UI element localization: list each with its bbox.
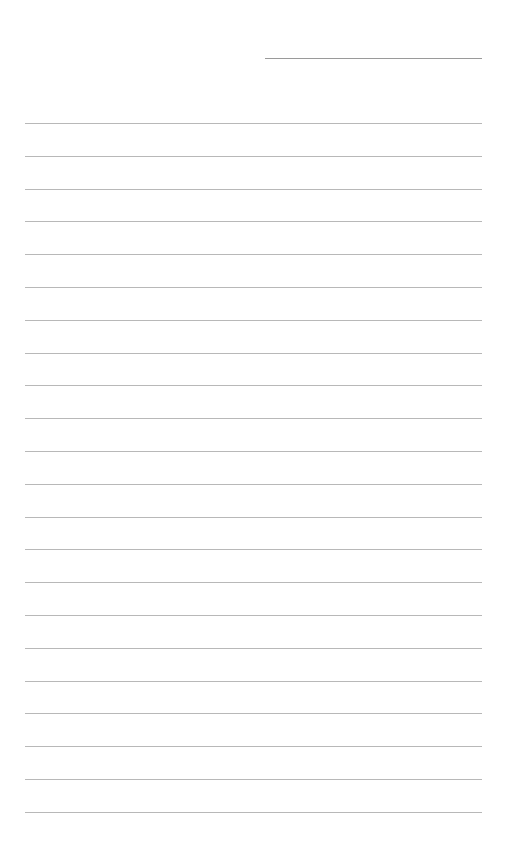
ruled-line — [25, 713, 482, 714]
ruled-line — [25, 648, 482, 649]
ruled-line — [25, 189, 482, 190]
ruled-line — [25, 812, 482, 813]
ruled-line — [25, 681, 482, 682]
ruled-line — [25, 123, 482, 124]
ruled-line — [25, 746, 482, 747]
ruled-line — [25, 418, 482, 419]
ruled-line — [25, 221, 482, 222]
ruled-line — [25, 385, 482, 386]
ruled-line — [25, 320, 482, 321]
ruled-line — [25, 353, 482, 354]
header-name-line — [265, 58, 482, 59]
ruled-line — [25, 779, 482, 780]
ruled-line — [25, 582, 482, 583]
ruled-line — [25, 254, 482, 255]
ruled-line — [25, 615, 482, 616]
ruled-line — [25, 451, 482, 452]
ruled-line — [25, 517, 482, 518]
ruled-line — [25, 156, 482, 157]
ruled-line — [25, 287, 482, 288]
ruled-line — [25, 484, 482, 485]
ruled-line — [25, 549, 482, 550]
